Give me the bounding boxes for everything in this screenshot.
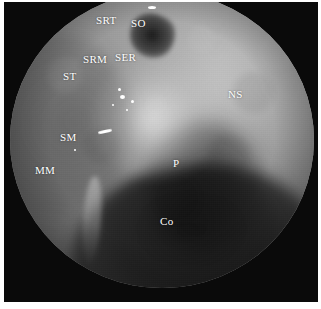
specular-highlight (120, 95, 125, 99)
endoscope-field-of-view (10, 2, 314, 288)
specular-highlight (74, 149, 76, 151)
anatomy-label-ns: NS (228, 89, 243, 100)
anatomy-label-so: SO (131, 18, 146, 29)
specular-highlight (148, 6, 156, 9)
specular-highlight (131, 100, 134, 103)
specular-highlight (118, 88, 121, 91)
anatomy-label-srm: SRM (83, 54, 107, 65)
anatomy-label-srt: SRT (96, 15, 116, 26)
photograph-plate: SRTSOSRMSERSTNSSMMMPCo (4, 2, 318, 302)
anatomy-label-mm: MM (35, 165, 55, 176)
anatomy-label-sm: SM (60, 132, 77, 143)
scope-vignette (10, 2, 314, 288)
specular-highlight (112, 104, 114, 106)
endoscopy-figure: SRTSOSRMSERSTNSSMMMPCo (0, 0, 321, 309)
specular-highlight (126, 109, 128, 111)
anatomy-label-co: Co (160, 216, 173, 227)
anatomy-label-ser: SER (115, 52, 136, 63)
anatomy-label-st: ST (63, 71, 76, 82)
anatomy-label-p: P (173, 158, 179, 169)
